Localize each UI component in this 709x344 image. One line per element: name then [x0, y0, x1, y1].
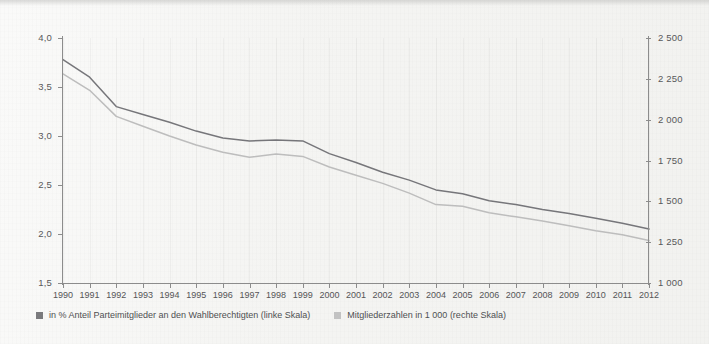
x-axis-tick	[303, 283, 304, 288]
right-axis-tick-label: 1 000	[658, 277, 704, 288]
x-axis-tick	[63, 283, 64, 288]
left-axis-tick	[58, 38, 63, 39]
x-axis-tick	[250, 283, 251, 288]
left-axis-tick-label: 2,5	[12, 179, 52, 190]
x-axis-tick	[276, 283, 277, 288]
x-axis-tick	[436, 283, 437, 288]
legend-item-1[interactable]: Mitgliederzahlen in 1 000 (rechte Skala)	[334, 311, 506, 320]
chart-legend: in % Anteil Parteimitglieder an den Wahl…	[36, 311, 506, 320]
x-axis-tick	[170, 283, 171, 288]
legend-label: Mitgliederzahlen in 1 000 (rechte Skala)	[347, 311, 506, 320]
legend-label: in % Anteil Parteimitglieder an den Wahl…	[49, 311, 310, 320]
legend-item-0[interactable]: in % Anteil Parteimitglieder an den Wahl…	[36, 311, 310, 320]
right-axis-tick	[646, 201, 651, 202]
x-axis-tick	[143, 283, 144, 288]
x-axis-tick	[463, 283, 464, 288]
left-axis-tick	[58, 87, 63, 88]
left-axis-tick-label: 4,0	[12, 32, 52, 43]
right-axis-tick-label: 2 500	[658, 32, 704, 43]
plot-area	[63, 38, 649, 283]
x-axis-tick	[569, 283, 570, 288]
chart-figure: 1,52,02,53,03,54,0 1 0001 2501 5001 7502…	[0, 0, 709, 344]
legend-swatch-icon	[36, 312, 43, 319]
x-axis-tick-label-2012: 2012	[629, 290, 669, 300]
x-axis-tick	[223, 283, 224, 288]
left-axis-tick	[58, 185, 63, 186]
right-axis-tick	[646, 242, 651, 243]
right-axis-tick	[646, 120, 651, 121]
left-axis-tick	[58, 136, 63, 137]
left-axis-tick-label: 2,0	[12, 228, 52, 239]
right-axis-tick-label: 2 000	[658, 114, 704, 125]
left-axis-tick-label: 3,5	[12, 81, 52, 92]
series-line-1	[63, 74, 649, 241]
x-axis-tick	[622, 283, 623, 288]
x-axis-tick	[489, 283, 490, 288]
left-axis-line	[62, 36, 63, 285]
x-axis-tick	[196, 283, 197, 288]
right-axis-tick	[646, 38, 651, 39]
right-axis-tick-label: 1 250	[658, 236, 704, 247]
legend-swatch-icon	[334, 312, 341, 319]
right-axis-tick	[646, 161, 651, 162]
right-axis-tick-label: 2 250	[658, 73, 704, 84]
x-axis-tick	[543, 283, 544, 288]
x-axis-tick	[116, 283, 117, 288]
right-axis-tick-label: 1 750	[658, 155, 704, 166]
series-line-0	[63, 60, 649, 230]
x-axis-tick	[383, 283, 384, 288]
right-axis-tick	[646, 79, 651, 80]
x-axis-tick	[90, 283, 91, 288]
series-lines	[63, 38, 649, 283]
left-axis-tick-label: 1,5	[12, 277, 52, 288]
right-axis-tick-label: 1 500	[658, 195, 704, 206]
x-axis-tick	[329, 283, 330, 288]
left-axis-tick-label: 3,0	[12, 130, 52, 141]
x-axis-tick	[409, 283, 410, 288]
x-axis-tick	[649, 283, 650, 288]
left-axis-tick	[58, 234, 63, 235]
x-axis-tick	[356, 283, 357, 288]
x-axis-tick	[596, 283, 597, 288]
x-axis-tick	[516, 283, 517, 288]
